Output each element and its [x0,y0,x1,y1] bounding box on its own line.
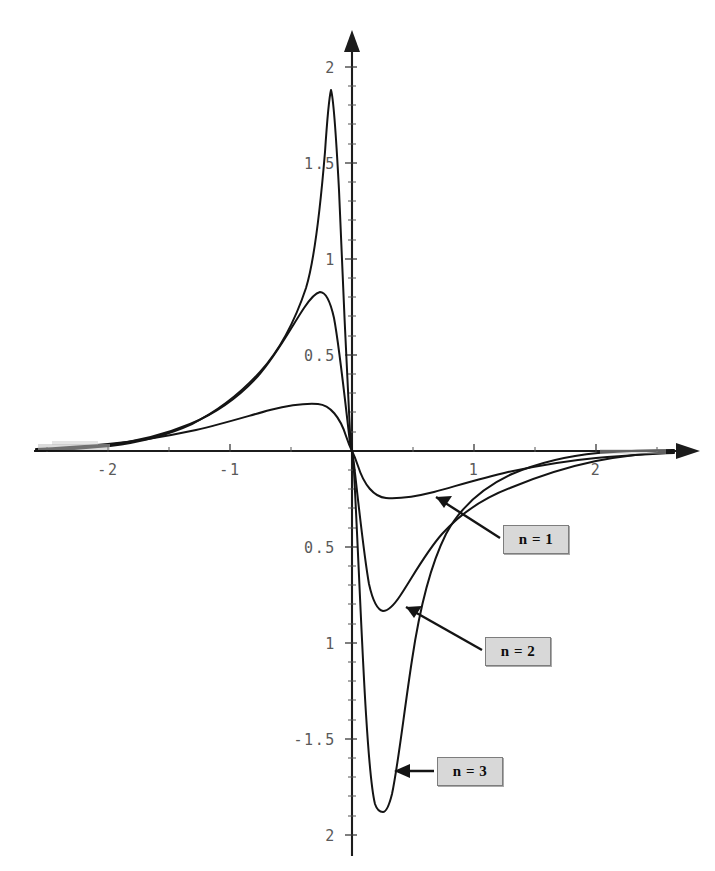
y-ticklabel-2: 2 [325,59,336,77]
scan-artifact [600,449,666,454]
figure-canvas: 2 1.5 1 0.5 0.5 1 -1.5 2 -2 -1 1 2 [0,0,715,871]
y-ticklabel-neg-1: 1 [325,635,336,653]
x-axis-arrowhead [676,443,700,459]
y-ticklabel-neg-0p5: 0.5 [304,539,336,557]
x-ticklabel-neg-1: -1 [219,461,240,479]
scan-artifact [52,441,98,445]
plot-svg: 2 1.5 1 0.5 0.5 1 -1.5 2 -2 -1 1 2 [0,0,715,871]
callout-label-n1: n = 1 [503,525,569,554]
y-ticklabel-1p5: 1.5 [304,155,336,173]
leader-n1 [436,496,500,538]
x-ticklabel-neg-2: -2 [97,461,118,479]
callout-label-n2: n = 2 [485,637,551,666]
x-ticklabel-1: 1 [469,461,480,479]
leader-n3 [394,764,434,778]
x-ticklabel-2: 2 [591,461,602,479]
y-ticklabel-neg-1p5: -1.5 [293,731,336,749]
y-axis-arrowhead [344,30,360,52]
callout-label-n3: n = 3 [437,757,503,786]
y-ticklabel-1: 1 [325,251,336,269]
y-ticklabel-neg-2: 2 [325,827,336,845]
y-ticklabel-0p5: 0.5 [304,347,336,365]
